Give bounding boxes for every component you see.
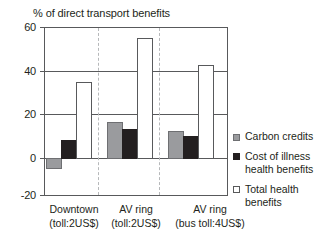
chart-legend: Carbon credits Cost of illness health be… [233, 130, 321, 216]
legend-item-total-health: Total health benefits [233, 183, 321, 210]
legend-label-cost-of-illness-line2: health benefits [245, 163, 321, 177]
group-separator-2 [159, 28, 160, 195]
legend-label-total-health-line2: benefits [245, 196, 321, 210]
bar-cost-of-illness-av-ring-bus [183, 136, 199, 159]
chart-title: % of direct transport benefits [33, 7, 170, 20]
bar-total-health-downtown [76, 82, 92, 159]
legend-item-carbon-credits: Carbon credits [233, 130, 321, 144]
bar-total-health-av-ring-bus [198, 65, 214, 159]
x-category-av-ring-bus-line2: (bus toll:4US$) [175, 217, 244, 229]
bar-chart: % of direct transport benefits 60 40 20 … [0, 0, 321, 244]
legend-swatch-carbon-credits-icon [233, 134, 240, 141]
y-tick-label-40: 40 [0, 66, 36, 77]
bar-cost-of-illness-av-ring-toll [122, 129, 138, 159]
bar-carbon-credits-av-ring-toll [107, 122, 123, 159]
legend-item-cost-of-illness: Cost of illness health benefits [233, 150, 321, 177]
legend-swatch-cost-of-illness-icon [233, 153, 240, 160]
x-category-av-ring-toll-line2: (toll:2US$) [111, 217, 161, 229]
legend-label-total-health-line1: Total health [245, 183, 321, 197]
y-tick-label-minus20: -20 [0, 190, 36, 201]
legend-label-cost-of-illness-line1: Cost of illness [245, 150, 321, 164]
x-category-downtown-line2: (toll:2US$) [49, 217, 99, 229]
legend-swatch-total-health-icon [233, 186, 240, 193]
group-separator-1 [98, 28, 99, 195]
y-tick-label-60: 60 [0, 22, 36, 33]
plot-area [44, 27, 228, 196]
x-category-downtown-line1: Downtown [49, 203, 98, 215]
bar-carbon-credits-downtown [46, 158, 62, 169]
x-category-av-ring-toll-line1: AV ring [119, 203, 153, 215]
bar-carbon-credits-av-ring-bus [168, 131, 184, 159]
x-category-av-ring-bus-line1: AV ring [193, 203, 227, 215]
bar-cost-of-illness-downtown [61, 140, 77, 159]
y-tick-label-0: 0 [0, 153, 36, 164]
bar-total-health-av-ring-toll [137, 38, 153, 159]
legend-label-carbon-credits: Carbon credits [245, 130, 321, 144]
y-tick-label-20: 20 [0, 109, 36, 120]
